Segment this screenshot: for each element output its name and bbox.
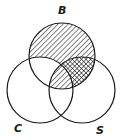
- set-label-c: C: [14, 123, 22, 134]
- set-label-s: S: [96, 125, 104, 136]
- set-label-b: B: [58, 5, 66, 16]
- venn-diagram: [0, 0, 123, 140]
